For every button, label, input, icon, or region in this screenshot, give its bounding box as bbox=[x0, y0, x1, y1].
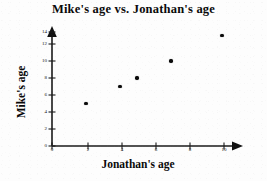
x-tick-label: 2 bbox=[82, 147, 94, 152]
data-point bbox=[220, 34, 223, 37]
x-tick-label: 4 bbox=[116, 147, 128, 152]
data-point bbox=[84, 102, 87, 105]
x-tick-label: 8 bbox=[184, 147, 196, 152]
y-tick-label: 10 bbox=[37, 58, 47, 63]
y-tick-label: 2 bbox=[37, 126, 47, 131]
y-tick-label: 6 bbox=[37, 92, 47, 97]
x-axis-arrowhead-icon bbox=[232, 141, 243, 150]
y-tick-label: 12 bbox=[37, 41, 47, 46]
x-tick-label: 0 bbox=[46, 147, 58, 152]
y-tick-label: 0 bbox=[37, 143, 47, 148]
x-tick-label: 6 bbox=[150, 147, 162, 152]
y-tick-label: 4 bbox=[37, 109, 47, 114]
data-point bbox=[118, 85, 121, 88]
y-tick-label: 14 bbox=[37, 29, 47, 34]
chart-page: Mike's age vs. Jonathan's age Mike's age… bbox=[0, 0, 267, 181]
axes-group bbox=[47, 26, 243, 151]
scatter-plot-canvas bbox=[0, 0, 267, 181]
x-tick-label: 10 bbox=[218, 147, 230, 152]
data-point bbox=[169, 59, 172, 62]
data-point bbox=[135, 76, 138, 79]
y-tick-label: 8 bbox=[37, 75, 47, 80]
